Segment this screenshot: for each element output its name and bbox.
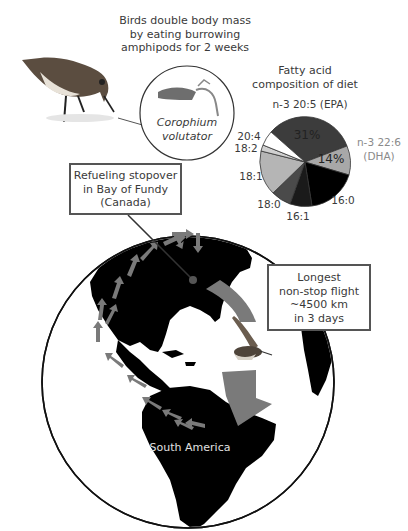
headline-line-3: amphipods for 2 weeks	[95, 41, 275, 55]
label-16-0: 16:0	[330, 194, 356, 208]
prey-species-label: Corophium volutator	[147, 116, 227, 143]
label-dha-line-1: n-3 22:6	[350, 136, 408, 150]
headline-text: Birds double body mass by eating burrowi…	[95, 14, 275, 55]
label-16-1: 16:1	[285, 210, 311, 224]
stopover-line-1: Refueling stopover	[71, 169, 180, 183]
label-epa-percent: 31%	[290, 129, 324, 143]
label-18-2: 18:2	[233, 142, 259, 156]
pie-title-line-1: Fatty acid	[250, 64, 360, 78]
sandpiper-illustration	[22, 58, 146, 126]
stopover-line-3: (Canada)	[71, 196, 180, 210]
bay-of-fundy-marker	[189, 276, 197, 284]
south-america-label: South America	[140, 441, 240, 455]
label-epa: n-3 20:5 (EPA)	[265, 98, 355, 112]
flight-line-2: non-stop flight	[269, 285, 369, 299]
pie-title: Fatty acid composition of diet	[250, 64, 360, 91]
pie-title-line-2: composition of diet	[250, 78, 360, 92]
label-dha: n-3 22:6 (DHA)	[350, 136, 408, 163]
stopover-line-2: in Bay of Fundy	[71, 183, 180, 197]
stopover-callout-box: Refueling stopover in Bay of Fundy (Cana…	[69, 163, 182, 215]
flight-line-1: Longest	[269, 271, 369, 285]
amphipod-circle	[140, 66, 234, 160]
prey-genus: Corophium	[147, 116, 227, 130]
prey-species: volutator	[147, 130, 227, 144]
label-dha-percent: 14%	[314, 153, 348, 167]
label-18-0: 18:0	[256, 198, 282, 212]
headline-line-1: Birds double body mass	[95, 14, 275, 28]
flight-callout-box: Longest non-stop flight ~4500 km in 3 da…	[267, 264, 371, 331]
flight-line-4: in 3 days	[269, 312, 369, 326]
label-18-1: 18:1	[238, 170, 264, 184]
label-dha-line-2: (DHA)	[350, 150, 408, 164]
headline-line-2: by eating burrowing	[95, 28, 275, 42]
flight-line-3: ~4500 km	[269, 298, 369, 312]
